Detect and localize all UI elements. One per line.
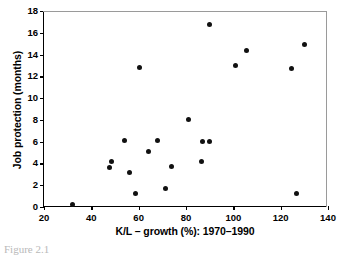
plot-frame-right xyxy=(326,11,327,207)
scatter-point xyxy=(107,165,112,170)
scatter-point xyxy=(70,202,75,207)
x-tick-mark xyxy=(186,206,187,210)
scatter-point xyxy=(127,170,132,175)
scatter-point xyxy=(302,42,307,47)
y-tick-label: 6 xyxy=(33,135,38,148)
x-tick-mark xyxy=(91,206,92,210)
scatter-point xyxy=(233,63,238,68)
x-tick-label: 100 xyxy=(225,212,241,223)
scatter-point xyxy=(244,48,249,53)
x-axis-title: K/L – growth (%): 1970–1990 xyxy=(43,225,327,237)
y-tick-label: 14 xyxy=(27,48,38,61)
scatter-point xyxy=(186,117,191,122)
scatter-point xyxy=(207,139,212,144)
y-tick-mark xyxy=(40,142,44,143)
y-tick-label: 12 xyxy=(27,69,38,82)
x-tick-label: 60 xyxy=(133,212,144,223)
y-tick-label: 10 xyxy=(27,91,38,104)
scatter-point xyxy=(122,138,127,143)
y-tick-label: 8 xyxy=(33,113,38,126)
x-tick-label: 80 xyxy=(181,212,192,223)
scatter-point xyxy=(137,65,142,70)
x-tick-mark xyxy=(44,206,45,210)
y-tick-label: 16 xyxy=(27,26,38,39)
scatter-point xyxy=(133,191,138,196)
y-tick-label: 2 xyxy=(33,178,38,191)
scatter-point xyxy=(163,186,168,191)
scatter-point xyxy=(294,191,299,196)
x-tick-label: 120 xyxy=(273,212,289,223)
figure-container: Job protection (months) 024681012141618 … xyxy=(0,0,350,258)
y-tick-mark xyxy=(40,55,44,56)
y-tick-mark xyxy=(40,185,44,186)
x-tick-mark xyxy=(328,206,329,210)
scatter-point xyxy=(200,139,205,144)
figure-caption: Figure 2.1 xyxy=(4,243,49,255)
x-tick-mark xyxy=(233,206,234,210)
y-tick-mark xyxy=(40,98,44,99)
x-tick-label: 140 xyxy=(320,212,336,223)
scatter-point xyxy=(199,159,204,164)
y-tick-label: 4 xyxy=(33,156,38,169)
scatter-point xyxy=(109,159,114,164)
x-tick-mark xyxy=(281,206,282,210)
y-tick-mark xyxy=(40,76,44,77)
y-tick-label: 0 xyxy=(33,200,38,213)
scatter-point xyxy=(155,138,160,143)
y-tick-mark xyxy=(40,120,44,121)
y-tick-label: 18 xyxy=(27,4,38,17)
scatter-point xyxy=(169,164,174,169)
plot-frame-top xyxy=(43,11,327,12)
plot-area: 024681012141618 20406080100120140 xyxy=(43,11,327,207)
scatter-point xyxy=(289,66,294,71)
x-tick-label: 40 xyxy=(86,212,97,223)
y-axis-title: Job protection (months) xyxy=(11,10,23,210)
scatter-point xyxy=(207,22,212,27)
scatter-point xyxy=(146,149,151,154)
x-tick-label: 20 xyxy=(39,212,50,223)
y-tick-mark xyxy=(40,163,44,164)
y-tick-mark xyxy=(40,33,44,34)
x-tick-mark xyxy=(139,206,140,210)
